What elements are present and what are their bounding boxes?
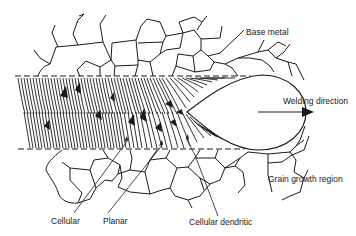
planar-label: Planar [103,217,128,226]
weld-microstructure-diagram: Base metal Welding direction Grain growt… [0,0,356,236]
welding-direction-label: Welding direction [283,97,348,106]
diagram-canvas [0,0,356,236]
cellular-dendritic-label: Cellular dendritic [189,218,252,227]
cellular-label: Cellular [51,217,80,226]
cellular-dendritic-leader [186,138,218,216]
base-metal-grains-top [34,14,304,80]
cellular-leader [74,140,128,213]
planar-leader [108,144,163,213]
grain-growth-region-label: Grain growth region [268,175,343,184]
base-metal-label: Base metal [246,28,289,37]
